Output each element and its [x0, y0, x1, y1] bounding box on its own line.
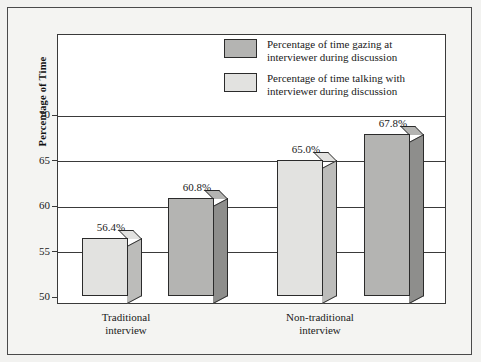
y-tick-label-60: 60 — [24, 200, 50, 211]
bar-value-label: 56.4% — [78, 221, 144, 233]
bar-value-label: 65.0% — [273, 143, 339, 155]
category-label-nontraditional-line2: interview — [250, 324, 390, 337]
legend-swatch-gazing-icon — [224, 39, 257, 58]
legend-label-talking-line2: interviewer during discussion — [267, 85, 405, 98]
legend-label-gazing: Percentage of time gazing at interviewer… — [267, 38, 397, 63]
category-label-traditional-line2: interview — [56, 324, 196, 337]
bar-side-face — [127, 238, 142, 304]
legend-entry-talking[interactable]: Percentage of time talking with intervie… — [224, 72, 434, 97]
y-tick-label-55: 55 — [24, 246, 50, 257]
bar-side-face — [322, 160, 337, 304]
bar-front-face — [168, 198, 214, 296]
category-label-traditional: Traditional interview — [56, 311, 196, 337]
legend-label-gazing-line1: Percentage of time gazing at — [267, 38, 392, 50]
bar-front-face — [364, 134, 410, 296]
bar-value-label: 67.8% — [360, 117, 426, 129]
bar-nontraditional-talking[interactable]: 65.0% — [277, 160, 338, 296]
bar-front-face — [277, 160, 323, 296]
y-axis-title: Percentage of Time — [37, 22, 48, 182]
bar-nontraditional-gazing[interactable]: 67.8% — [364, 134, 425, 296]
bar-side-face — [409, 134, 424, 304]
figure-container: 70 65 60 55 50 Percentage of Time 56.4% — [0, 0, 481, 362]
legend-entry-gazing[interactable]: Percentage of time gazing at interviewer… — [224, 38, 434, 63]
legend-label-talking-line1: Percentage of time talking with — [267, 72, 405, 84]
legend-label-gazing-line2: interviewer during discussion — [267, 51, 397, 64]
legend-swatch-talking-icon — [224, 73, 257, 92]
bar-side-face — [213, 198, 228, 304]
category-label-traditional-line1: Traditional — [56, 311, 196, 324]
y-tick-label-50: 50 — [24, 291, 50, 302]
category-label-nontraditional-line1: Non-traditional — [250, 311, 390, 324]
bar-traditional-talking[interactable]: 56.4% — [82, 238, 143, 296]
category-label-nontraditional: Non-traditional interview — [250, 311, 390, 337]
legend-label-talking: Percentage of time talking with intervie… — [267, 72, 405, 97]
bar-traditional-gazing[interactable]: 60.8% — [168, 198, 229, 296]
bar-front-face — [82, 238, 128, 296]
legend: Percentage of time gazing at interviewer… — [224, 38, 434, 106]
bar-value-label: 60.8% — [164, 181, 230, 193]
